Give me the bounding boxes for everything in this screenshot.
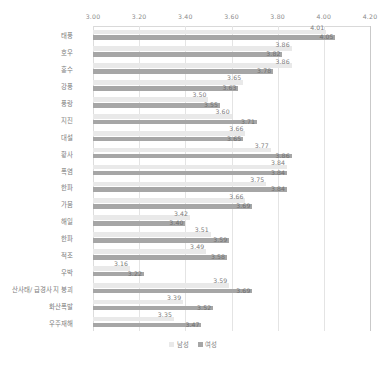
bar-male: [93, 30, 326, 35]
category-label: 호우: [61, 48, 73, 57]
bar-female: [93, 35, 335, 40]
bar-value-label: 3.35: [158, 311, 172, 318]
bar-male: [93, 165, 287, 170]
bar-female: [93, 120, 257, 125]
category-label: 풍랑: [61, 99, 73, 108]
bar-value-label: 3.55: [204, 101, 218, 108]
bar-male: [93, 80, 243, 85]
bar-value-label: 3.82: [266, 50, 280, 57]
bar-female: [93, 255, 227, 260]
legend-item-female[interactable]: 여성: [198, 340, 218, 349]
bar-value-label: 3.86: [276, 41, 290, 48]
chart-legend: 남성 여성: [0, 340, 386, 349]
bar-value-label: 3.51: [195, 226, 209, 233]
category-label: 폭염: [61, 167, 73, 176]
category-label: 홍수: [61, 65, 73, 74]
bar-value-label: 3.59: [213, 277, 227, 284]
bar-value-label: 3.66: [229, 125, 243, 132]
x-tick-label: 4.20: [363, 13, 378, 20]
bar-female: [93, 171, 287, 176]
bar-value-label: 3.78: [257, 67, 271, 74]
bar-value-label: 3.59: [213, 236, 227, 243]
bar-value-label: 3.63: [222, 84, 236, 91]
category-label: 산사태/ 급경사지 붕괴: [12, 285, 73, 294]
bar-value-label: 3.84: [271, 169, 285, 176]
bar-value-label: 3.69: [236, 287, 250, 294]
x-tick-label: 3.20: [132, 13, 147, 20]
bar-female: [93, 187, 287, 192]
bar-value-label: 3.52: [197, 304, 211, 311]
bar-female: [93, 306, 213, 311]
bar-value-label: 3.84: [271, 159, 285, 166]
bar-value-label: 3.49: [190, 243, 204, 250]
bar-value-label: 3.58: [211, 253, 225, 260]
category-label: 적조: [61, 251, 73, 260]
category-label: 우주재해: [49, 319, 73, 328]
legend-swatch-female-icon: [198, 342, 203, 347]
bar-value-label: 3.47: [185, 321, 199, 328]
bar-value-label: 3.22: [128, 270, 142, 277]
chart-row: 호우3.863.82: [93, 44, 370, 61]
chart-row: 해일3.423.40: [93, 213, 370, 230]
chart-row: 화산폭발3.393.52: [93, 297, 370, 314]
gridline: [370, 26, 371, 331]
bar-chart: 3.003.203.403.603.804.004.20 태풍4.014.05호…: [0, 0, 386, 366]
bar-value-label: 3.75: [250, 176, 264, 183]
bar-female: [93, 52, 282, 57]
chart-row: 우박3.163.22: [93, 263, 370, 280]
bar-female: [93, 238, 229, 243]
legend-item-male[interactable]: 남성: [169, 340, 189, 349]
bar-value-label: 3.66: [229, 193, 243, 200]
bar-male: [93, 283, 229, 288]
legend-label-female: 여성: [205, 340, 217, 349]
chart-row: 대설3.663.65: [93, 128, 370, 145]
bar-male: [93, 148, 271, 153]
chart-row: 가뭄3.663.69: [93, 196, 370, 213]
bar-value-label: 3.65: [227, 135, 241, 142]
category-label: 한파: [61, 183, 73, 192]
chart-row: 강풍3.653.63: [93, 78, 370, 95]
bar-value-label: 3.16: [114, 260, 128, 267]
x-tick-label: 3.80: [270, 13, 285, 20]
category-label: 황사: [61, 150, 73, 159]
bar-male: [93, 46, 292, 51]
bar-value-label: 3.86: [276, 152, 290, 159]
bar-value-label: 3.69: [236, 202, 250, 209]
chart-row: 태풍4.014.05: [93, 27, 370, 44]
bar-value-label: 4.05: [319, 33, 333, 40]
bar-value-label: 3.39: [167, 294, 181, 301]
chart-row: 산사태/ 급경사지 붕괴3.593.69: [93, 280, 370, 297]
bar-value-label: 3.60: [216, 108, 230, 115]
bar-female: [93, 86, 238, 91]
bar-value-label: 3.42: [174, 210, 188, 217]
category-label: 우박: [61, 268, 73, 277]
category-label: 강풍: [61, 82, 73, 91]
x-tick-label: 4.00: [317, 13, 332, 20]
bar-female: [93, 154, 292, 159]
bar-male: [93, 97, 208, 102]
category-label: 한파: [61, 234, 73, 243]
x-tick-label: 3.00: [86, 13, 101, 20]
bar-value-label: 3.40: [169, 219, 183, 226]
bar-male: [93, 114, 232, 119]
bar-value-label: 3.50: [192, 91, 206, 98]
chart-row: 폭염3.843.84: [93, 162, 370, 179]
chart-row: 풍랑3.503.55: [93, 95, 370, 112]
category-label: 화산폭발: [49, 302, 73, 311]
bar-value-label: 3.71: [241, 118, 255, 125]
category-label: 태풍: [61, 31, 73, 40]
bar-value-label: 3.86: [276, 58, 290, 65]
x-tick-label: 3.60: [224, 13, 239, 20]
chart-row: 적조3.493.58: [93, 247, 370, 264]
bar-value-label: 3.65: [227, 74, 241, 81]
plot-area: 태풍4.014.05호우3.863.82홍수3.863.78강풍3.653.63…: [93, 27, 370, 331]
bar-female: [93, 289, 252, 294]
bar-male: [93, 131, 245, 136]
bar-value-label: 3.77: [255, 142, 269, 149]
x-tick-label: 3.40: [178, 13, 193, 20]
chart-row: 한파3.513.59: [93, 230, 370, 247]
bar-female: [93, 69, 273, 74]
bar-male: [93, 198, 245, 203]
bar-value-label: 4.01: [310, 24, 324, 31]
bar-female: [93, 137, 243, 142]
